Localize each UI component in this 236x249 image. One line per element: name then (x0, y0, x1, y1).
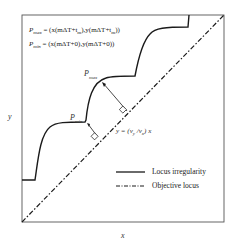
pmin-label-sub: min (75, 119, 83, 124)
x-axis-label: x (121, 231, 125, 240)
y-axis-label: y (8, 112, 12, 121)
formula-pmax-subscript: max (33, 30, 41, 35)
formula-pmin-rhs: = (x(mΔT+0),y(mΔT+0)) (41, 40, 115, 48)
line-eq-mid: /v (135, 127, 142, 135)
pmax-label-sub: max (89, 75, 97, 80)
formula-pmax-rhs-c: )) (115, 26, 120, 34)
formula-pmin: Pmin = (x(mΔT+0),y(mΔT+0)) (29, 40, 114, 49)
formula-pmax-rhs-a: = (x(mΔT+t (42, 26, 78, 34)
pmax-label: Pmax (84, 69, 97, 80)
formula-pmax: Pmax = (x(mΔT+tm),y(mΔT+tm)) (29, 26, 120, 35)
pmin-right-angle-icon (91, 133, 98, 140)
legend-item-locus-irregularity: Locus irregularity (152, 167, 206, 176)
legend-item-objective-locus: Objective locus (152, 181, 199, 190)
objective-line-equation: y = (vy /vx) x (116, 127, 151, 136)
pmin-label: Pmin (70, 113, 82, 124)
formula-pmin-subscript: min (33, 44, 41, 49)
diagram-canvas (0, 0, 236, 249)
line-eq-pre: y = (v (116, 127, 133, 135)
locus-diagram: Pmax = (x(mΔT+tm),y(mΔT+tm)) Pmin = (x(m… (0, 0, 236, 249)
line-eq-post: ) x (144, 127, 151, 135)
formula-pmax-rhs-b: ),y(mΔT+t (81, 26, 111, 34)
pmax-right-angle-icon (119, 106, 126, 113)
